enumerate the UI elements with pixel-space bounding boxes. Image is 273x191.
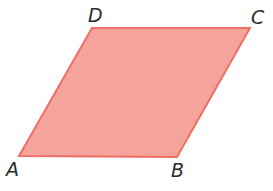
parallelogram-diagram <box>0 0 273 191</box>
vertex-label-c: C <box>251 8 264 27</box>
vertex-label-a: A <box>6 160 19 179</box>
vertex-label-d: D <box>88 6 103 25</box>
vertex-label-b: B <box>171 161 184 180</box>
parallelogram-abcd <box>19 28 250 157</box>
